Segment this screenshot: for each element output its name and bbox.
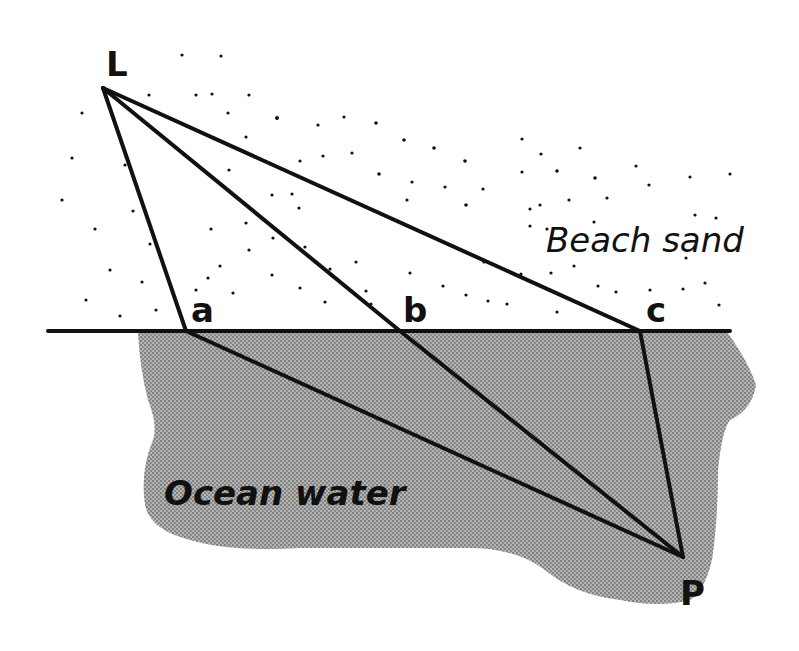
- ocean-water-label: Ocean water: [164, 473, 408, 513]
- point-label-L: L: [106, 44, 128, 84]
- ocean-water-region: [138, 333, 756, 604]
- diagram-svg: L a b c P Beach sand Ocean water: [0, 0, 799, 651]
- point-label-a: a: [191, 290, 214, 330]
- diagram-canvas: L a b c P Beach sand Ocean water: [0, 0, 799, 651]
- beach-sand-label: Beach sand: [546, 220, 744, 260]
- point-label-b: b: [403, 290, 427, 330]
- beach-sand-dots: [60, 53, 731, 317]
- point-label-P: P: [680, 573, 705, 613]
- point-label-c: c: [646, 290, 666, 330]
